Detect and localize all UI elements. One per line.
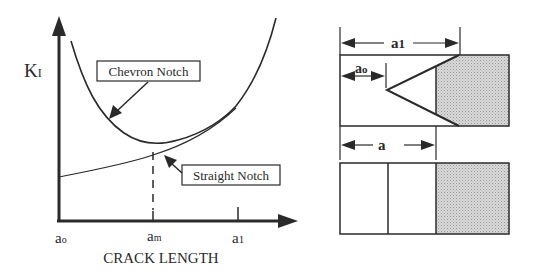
a1-arrow-left-icon [341, 38, 355, 48]
a0-dim-label: ao [355, 61, 368, 76]
a1-arrow-right-icon [445, 38, 459, 48]
kI-vs-crack-length-chart: Chevron Notch Straight Notch KI ao am a1… [24, 16, 298, 266]
tick-label-a1: a1 [232, 230, 244, 246]
a-arrow-left-icon [341, 140, 355, 150]
a-arrow-right-icon [421, 140, 435, 150]
straight-leader-line [171, 163, 182, 173]
diagram-canvas: Chevron Notch Straight Notch KI ao am a1… [0, 0, 536, 275]
straight-specimen-shaded [436, 163, 509, 234]
x-axis-arrow-icon [278, 214, 298, 228]
tick-label-am: am [147, 228, 162, 244]
x-axis-title: CRACK LENGTH [103, 250, 219, 266]
a-dim-label: a [378, 137, 386, 153]
chevron-notch-label: Chevron Notch [109, 64, 189, 79]
y-axis-arrow-icon [52, 16, 66, 36]
chevron-specimen-shaded [436, 55, 509, 126]
a1-dim-label: a1 [391, 35, 405, 51]
specimen-diagram: a1 ao a [340, 27, 509, 234]
tick-label-ao: ao [55, 230, 67, 246]
chevron-leader-line [118, 82, 148, 110]
straight-notch-label: Straight Notch [193, 168, 270, 183]
y-axis-label: KI [24, 60, 42, 81]
